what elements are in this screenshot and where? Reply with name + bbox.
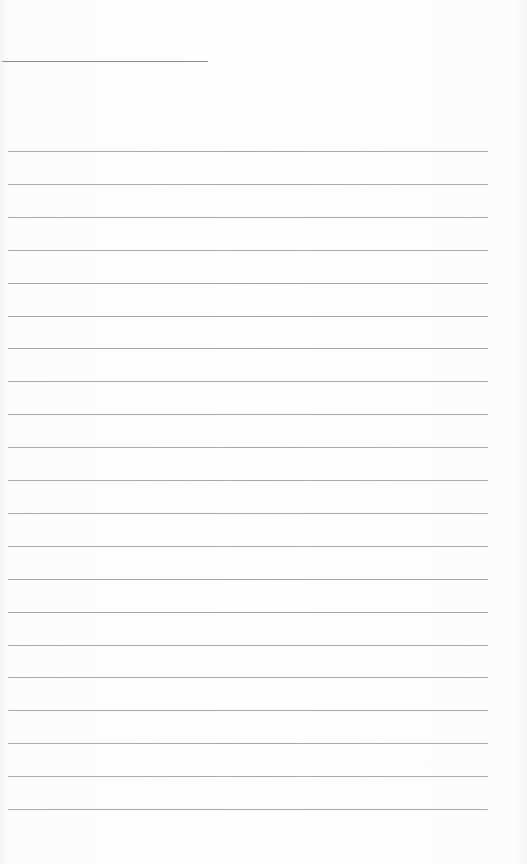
ruled-line [8, 217, 488, 218]
ruled-line [8, 677, 488, 678]
ruled-line [8, 381, 488, 382]
ruled-line [8, 579, 488, 580]
ruled-line [8, 447, 488, 448]
ruled-line [8, 776, 488, 777]
ruled-line [8, 414, 488, 415]
ruled-line [8, 184, 488, 185]
ruled-line [8, 710, 488, 711]
header-title-line [2, 61, 208, 62]
ruled-line [8, 316, 488, 317]
ruled-line [8, 151, 488, 152]
ruled-line [8, 283, 488, 284]
ruled-line [8, 513, 488, 514]
ruled-line [8, 645, 488, 646]
ruled-line [8, 743, 488, 744]
ruled-line [8, 546, 488, 547]
ruled-line [8, 612, 488, 613]
ruled-line [8, 348, 488, 349]
ruled-line [8, 809, 488, 810]
ruled-page [0, 0, 527, 864]
ruled-line [8, 480, 488, 481]
ruled-line [8, 250, 488, 251]
